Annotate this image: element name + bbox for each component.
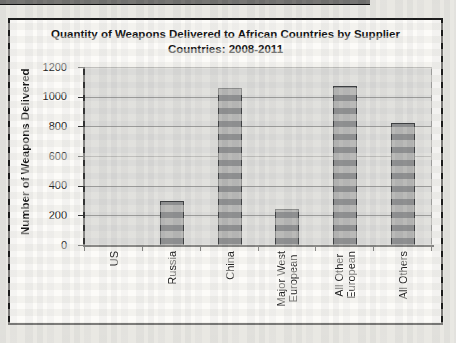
- y-tick-mark: [78, 97, 83, 98]
- bar-slot: [201, 67, 259, 245]
- x-label-slot: Major West European: [258, 251, 316, 321]
- x-label-all-other-european: All Other European: [333, 251, 357, 299]
- bar-major-west-european: [275, 209, 299, 245]
- chart-title-line2: Countries: 2008-2011: [10, 42, 441, 57]
- y-tick-mark: [78, 186, 83, 187]
- y-tick-label: 1000: [27, 90, 67, 102]
- x-label-all-others: All Others: [397, 251, 409, 299]
- bar-china: [218, 88, 242, 245]
- y-tick-mark: [78, 67, 83, 68]
- y-tick-label: 400: [27, 179, 67, 191]
- scan-artifact-strip: [0, 0, 370, 5]
- y-tick-label: 200: [27, 209, 67, 221]
- y-tick-label: 600: [27, 150, 67, 162]
- bar-slot: [374, 67, 432, 245]
- chart: Quantity of Weapons Delivered to African…: [8, 18, 443, 325]
- x-axis-labels: USRussiaChinaMajor West EuropeanAll Othe…: [85, 251, 432, 321]
- x-label-slot: All Others: [374, 251, 432, 321]
- y-axis-line: [83, 67, 85, 247]
- bars-layer: [85, 67, 432, 245]
- x-label-china: China: [224, 251, 236, 280]
- y-tick-mark: [78, 156, 83, 157]
- x-label-major-west-european: Major West European: [275, 251, 299, 306]
- bar-slot: [85, 67, 143, 245]
- bar-slot: [143, 67, 201, 245]
- y-tick-label: 0: [27, 239, 67, 251]
- plot-area: [85, 67, 432, 245]
- y-tick-label: 800: [27, 120, 67, 132]
- chart-title: Quantity of Weapons Delivered to African…: [10, 27, 441, 57]
- bar-slot: [258, 67, 316, 245]
- x-label-us: US: [108, 251, 120, 266]
- bar-slot: [316, 67, 374, 245]
- x-label-slot: All Other European: [316, 251, 374, 321]
- y-tick-mark: [78, 126, 83, 127]
- chart-title-line1: Quantity of Weapons Delivered to African…: [10, 27, 441, 42]
- x-label-slot: US: [85, 251, 143, 321]
- bar-all-others: [391, 123, 415, 245]
- y-tick-mark: [78, 245, 83, 246]
- x-label-slot: Russia: [143, 251, 201, 321]
- y-tick-mark: [78, 215, 83, 216]
- y-tick-label: 1200: [27, 61, 67, 73]
- bar-russia: [160, 201, 184, 246]
- x-axis-line: [83, 245, 434, 247]
- x-label-russia: Russia: [166, 251, 178, 285]
- bar-all-other-european: [333, 86, 357, 245]
- x-label-slot: China: [201, 251, 259, 321]
